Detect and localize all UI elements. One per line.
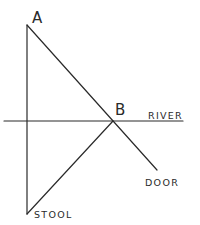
- label-stool: STOOL: [34, 209, 73, 220]
- label-point-a: A: [32, 9, 43, 27]
- diagram-canvas: A B RIVER DOOR STOOL: [0, 0, 200, 225]
- label-point-b: B: [115, 101, 125, 119]
- line-stool-b: [27, 121, 113, 214]
- label-door: DOOR: [145, 177, 179, 188]
- label-river: RIVER: [148, 110, 183, 121]
- line-a-door: [27, 25, 157, 170]
